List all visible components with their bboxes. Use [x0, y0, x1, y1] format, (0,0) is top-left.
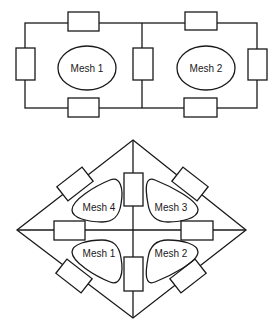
circuit-diagrams: Mesh 1 Mesh 2 Mesh 4 Mesh 3 Mesh 1 Mesh … [0, 0, 272, 335]
resistor-upper-left [57, 167, 93, 201]
resistor-center-right [181, 221, 213, 240]
bottom-mesh-1-label: Mesh 1 [83, 248, 116, 259]
resistor-center-left [54, 221, 85, 240]
top-circuit [16, 12, 267, 117]
top-mesh-1-label: Mesh 1 [71, 63, 104, 74]
resistor-bottom-left [68, 98, 99, 117]
resistor-middle [133, 48, 153, 80]
resistor-top-right [185, 12, 217, 30]
bottom-mesh-2-label: Mesh 2 [155, 248, 188, 259]
resistor-center-lower [124, 257, 143, 291]
bottom-circuit [17, 140, 246, 318]
bottom-mesh-4-label: Mesh 4 [83, 202, 116, 213]
top-mesh-2-label: Mesh 2 [190, 63, 223, 74]
resistor-left [16, 48, 35, 80]
bottom-mesh-3-label: Mesh 3 [155, 202, 188, 213]
resistor-right [248, 49, 267, 80]
resistor-center-upper [124, 173, 143, 206]
resistor-bottom-right [184, 98, 217, 117]
resistor-top-left [68, 12, 99, 31]
